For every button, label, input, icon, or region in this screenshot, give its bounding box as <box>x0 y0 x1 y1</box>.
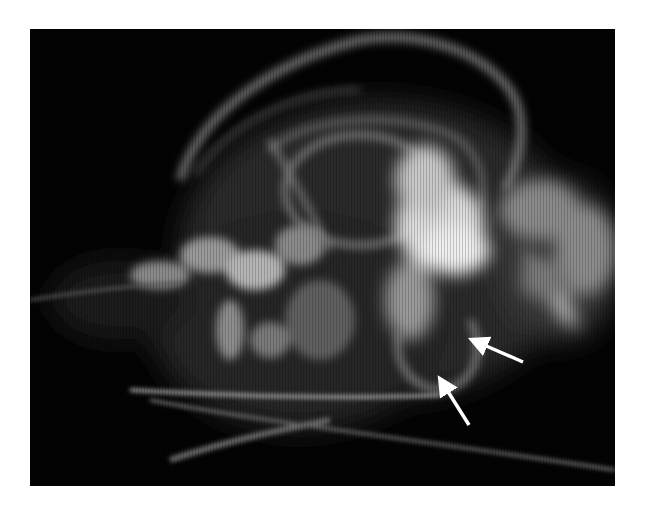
xray-image <box>30 29 615 486</box>
skull-radiograph <box>30 29 615 486</box>
scan-texture <box>30 29 615 486</box>
